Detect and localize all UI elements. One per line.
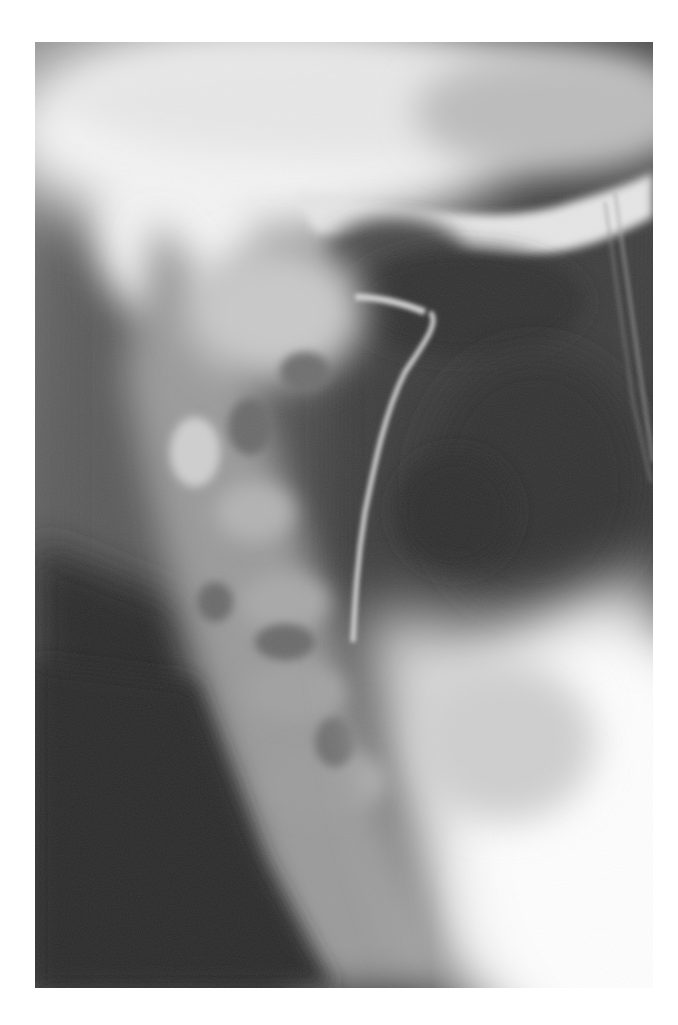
xray-image [35, 42, 653, 988]
xray-rendering [35, 42, 653, 988]
